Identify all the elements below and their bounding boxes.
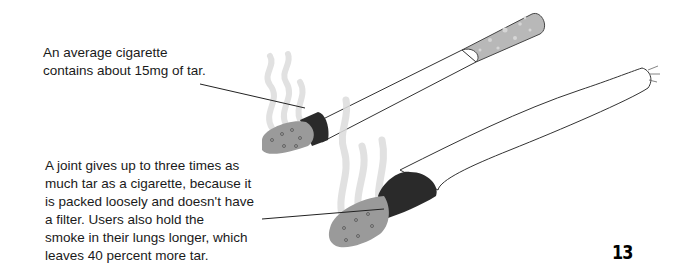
joint-paper	[400, 68, 651, 190]
cigarette-paper	[305, 50, 476, 142]
caption-line: much tar as a cigarette, because it	[45, 175, 254, 193]
cigarette-caption: An average cigarette contains about 15mg…	[43, 44, 206, 80]
caption-line: a filter. Users also hold the	[45, 211, 254, 229]
caption-line: smoke in their lungs longer, which	[45, 229, 254, 247]
caption-line: is packed loosely and doesn't have	[45, 193, 254, 211]
caption-line: leaves 40 percent more tar.	[45, 247, 254, 265]
caption-line: A joint gives up to three times as	[45, 157, 254, 175]
cigarette-filter	[462, 13, 545, 62]
cigarette-smoke-icon	[267, 54, 302, 128]
caption-line: contains about 15mg of tar.	[43, 62, 206, 80]
joint-caption: A joint gives up to three times as much …	[45, 157, 254, 265]
joint-illustration	[262, 66, 660, 247]
caption-line: An average cigarette	[43, 44, 206, 62]
page-number: 13	[612, 240, 633, 264]
